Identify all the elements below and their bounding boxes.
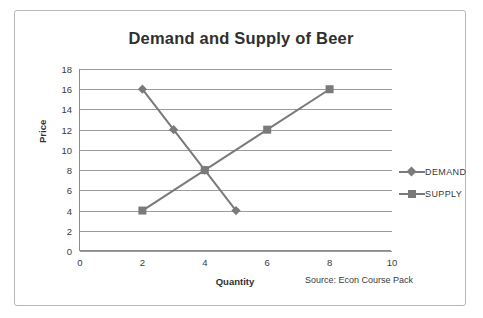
y-tick-label: 18 <box>50 64 72 75</box>
source-note: Source: Econ Course Pack <box>305 275 413 285</box>
legend-item-demand[interactable]: DEMAND <box>399 161 467 183</box>
chart-card: Demand and Supply of Beer Price Quantity… <box>14 10 466 306</box>
demand-line <box>142 89 236 210</box>
y-tick-label: 12 <box>50 124 72 135</box>
legend-item-supply[interactable]: SUPPLY <box>399 183 467 205</box>
x-tick-label: 4 <box>193 257 217 268</box>
y-tick-label: 0 <box>50 246 72 257</box>
y-tick-label: 6 <box>50 185 72 196</box>
gridline <box>80 251 392 252</box>
x-tick-label: 8 <box>318 257 342 268</box>
supply-marker <box>138 207 146 215</box>
supply-marker <box>326 85 334 93</box>
x-tick-label: 10 <box>380 257 404 268</box>
supply-marker <box>263 126 271 134</box>
supply-series-swatch-icon <box>399 189 425 199</box>
chart-title: Demand and Supply of Beer <box>15 29 467 48</box>
legend-label-supply: SUPPLY <box>425 189 462 199</box>
y-tick-label: 14 <box>50 104 72 115</box>
y-axis-label: Price <box>37 120 48 143</box>
demand-series-swatch-icon <box>399 167 425 177</box>
y-tick-label: 10 <box>50 144 72 155</box>
y-tick-label: 4 <box>50 205 72 216</box>
y-tick-label: 16 <box>50 84 72 95</box>
supply-marker <box>201 166 209 174</box>
legend-label-demand: DEMAND <box>425 167 466 177</box>
plot-area: 024681012141618 0246810 <box>79 69 391 251</box>
series-layer <box>80 69 392 251</box>
y-tick-label: 8 <box>50 165 72 176</box>
y-tick-label: 2 <box>50 225 72 236</box>
x-tick-label: 0 <box>68 257 92 268</box>
x-tick-label: 2 <box>130 257 154 268</box>
legend: DEMAND SUPPLY <box>399 161 467 205</box>
supply-line <box>142 89 329 210</box>
x-tick-label: 6 <box>255 257 279 268</box>
